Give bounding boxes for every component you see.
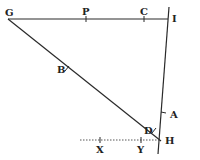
label-H: H bbox=[165, 135, 174, 146]
label-P: P bbox=[82, 6, 90, 17]
line-GH bbox=[8, 19, 161, 141]
label-B: B bbox=[57, 64, 65, 75]
line-IH bbox=[158, 7, 169, 154]
label-Y: Y bbox=[136, 144, 145, 155]
label-D: D bbox=[144, 125, 153, 136]
label-A: A bbox=[169, 109, 178, 120]
label-I: I bbox=[172, 13, 177, 24]
label-X: X bbox=[96, 144, 104, 155]
label-G: G bbox=[5, 7, 14, 18]
tick-A bbox=[161, 112, 166, 113]
label-C: C bbox=[140, 6, 148, 17]
geometry-diagram: G P C I B D A H X Y bbox=[0, 0, 200, 160]
